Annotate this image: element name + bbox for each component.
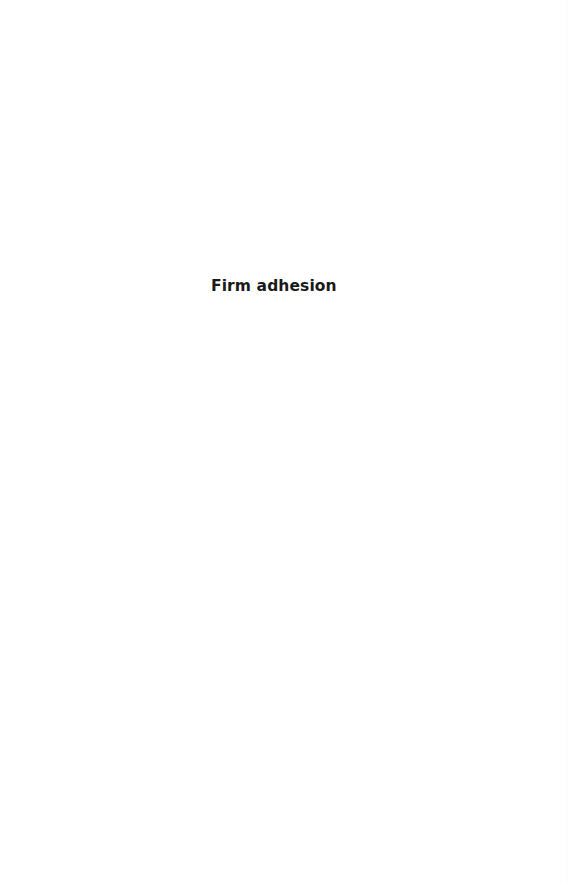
page-heading: Firm adhesion bbox=[211, 275, 337, 297]
document-page: Firm adhesion bbox=[0, 0, 568, 883]
